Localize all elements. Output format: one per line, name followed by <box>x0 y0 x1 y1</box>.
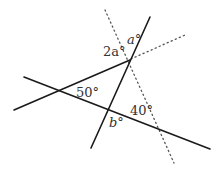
angle-label-a: a° <box>127 32 141 47</box>
angle-label-2a-text: 2a° <box>103 44 126 59</box>
angle-label-50: 50° <box>76 85 99 100</box>
geometry-diagram: a° 2a° 50° b° 40° <box>0 0 221 172</box>
rising-line <box>14 60 130 110</box>
angle-label-b: b° <box>109 115 124 130</box>
angle-label-2a: 2a° <box>103 44 126 59</box>
falling-line <box>24 77 210 149</box>
angle-label-40: 40° <box>130 103 153 118</box>
